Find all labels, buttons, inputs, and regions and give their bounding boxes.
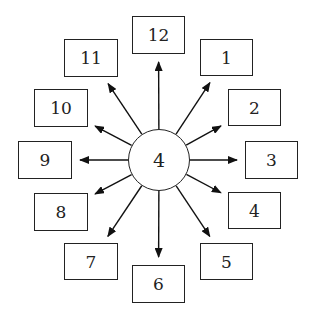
node-box: 9 bbox=[18, 141, 72, 179]
node-box: 7 bbox=[64, 243, 118, 280]
node-label: 2 bbox=[249, 98, 260, 118]
arrow bbox=[95, 126, 132, 145]
node-box: 8 bbox=[34, 193, 88, 231]
arrow bbox=[95, 175, 132, 194]
arrow bbox=[186, 126, 221, 145]
node-box: 10 bbox=[34, 89, 88, 127]
node-label: 12 bbox=[148, 25, 170, 45]
center-label: 4 bbox=[153, 149, 165, 171]
node-label: 3 bbox=[266, 150, 277, 170]
node-label: 8 bbox=[56, 202, 67, 222]
node-label: 11 bbox=[80, 48, 102, 68]
node-label: 7 bbox=[86, 252, 97, 272]
node-box: 12 bbox=[132, 16, 185, 54]
node-label: 10 bbox=[50, 98, 72, 118]
arrow bbox=[176, 186, 210, 237]
node-box: 1 bbox=[200, 39, 253, 76]
arrow bbox=[186, 174, 221, 192]
node-label: 9 bbox=[40, 150, 51, 170]
node-box: 11 bbox=[64, 39, 118, 77]
arrow bbox=[108, 186, 142, 237]
center-node: 4 bbox=[128, 129, 190, 191]
arrow bbox=[108, 84, 142, 135]
node-label: 6 bbox=[153, 274, 164, 294]
node-label: 1 bbox=[221, 48, 232, 68]
node-box: 2 bbox=[228, 89, 281, 126]
node-box: 6 bbox=[132, 265, 185, 303]
node-box: 4 bbox=[228, 192, 281, 229]
arrow bbox=[176, 83, 210, 134]
node-label: 5 bbox=[221, 252, 232, 272]
node-box: 3 bbox=[245, 141, 298, 179]
node-label: 4 bbox=[249, 201, 260, 221]
node-box: 5 bbox=[200, 243, 253, 280]
